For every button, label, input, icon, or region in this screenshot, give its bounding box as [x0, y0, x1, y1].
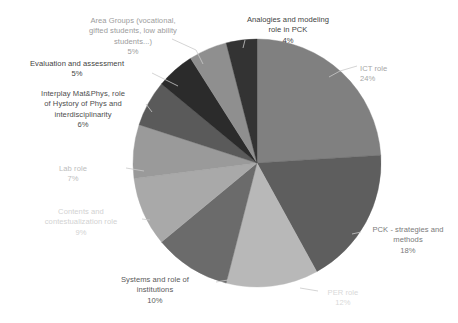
- leader-line: [300, 288, 318, 291]
- pie-chart-figure: ICT role24%PCK - strategies and methods1…: [0, 0, 458, 323]
- pie-slice[interactable]: [257, 39, 381, 163]
- leader-line: [172, 39, 196, 50]
- pie-chart-canvas: [0, 0, 458, 323]
- leader-line: [340, 66, 357, 71]
- pie-slices-group: [133, 39, 381, 287]
